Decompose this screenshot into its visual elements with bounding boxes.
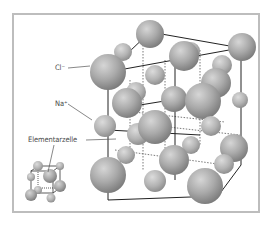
cl-ion [159,145,189,175]
na-ion [94,115,116,137]
na-ion [214,154,234,174]
unit-cell-label: Elementarzelle [28,135,77,144]
cl-ion [90,54,126,90]
cl-ion [187,168,223,204]
na-ion [201,116,221,136]
cl-ion [136,20,164,48]
unit-cell-drawing [25,161,66,203]
cl-ion [161,86,187,112]
na-ion [232,92,248,108]
na-ion [117,146,135,164]
cl-ion [228,33,256,61]
chloride-label: Cl⁻ [55,63,65,72]
cl-ion [185,83,221,119]
na-ion [145,65,165,85]
cl-ion [90,157,126,193]
cl-ion [169,41,199,71]
lattice-spheres [90,20,256,204]
sodium-label: Na⁺ [55,99,67,108]
na-ion [144,170,166,192]
cl-ion [138,110,172,144]
cl-ion [112,88,142,118]
crystal-lattice-drawing [0,0,276,227]
